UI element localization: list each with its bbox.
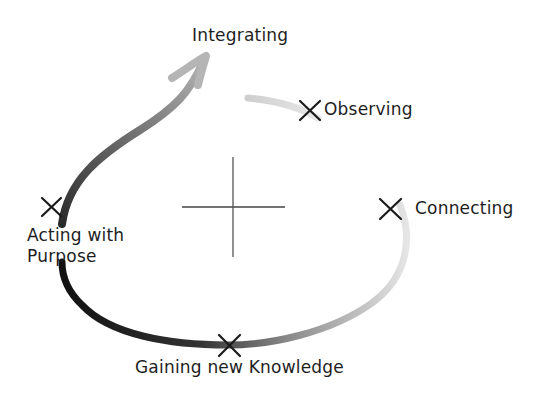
integrating-arrow (62, 62, 203, 224)
label-connecting: Connecting (415, 198, 514, 219)
label-integrating: Integrating (192, 25, 288, 46)
label-observing: Observing (324, 99, 413, 120)
label-gaining: Gaining new Knowledge (135, 357, 344, 378)
x-marker-acting (42, 198, 61, 216)
label-acting: Acting with Purpose (27, 225, 137, 267)
